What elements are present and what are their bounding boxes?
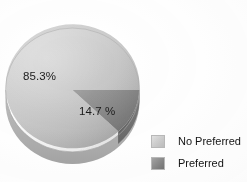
legend-swatch-preferred bbox=[151, 157, 165, 170]
slice-label-no-preferred: 85.3% bbox=[23, 70, 56, 82]
legend-item-no-preferred[interactable]: No Preferred bbox=[151, 130, 247, 152]
legend: No Preferred Preferred bbox=[151, 130, 247, 174]
slice-label-preferred: 14.7 % bbox=[79, 105, 115, 117]
legend-swatch-no-preferred bbox=[151, 135, 165, 148]
pie-sheen-overlay bbox=[6, 28, 140, 152]
legend-item-preferred[interactable]: Preferred bbox=[151, 152, 247, 174]
pie-svg bbox=[0, 6, 150, 178]
pie-chart-figure: 85.3% 14.7 % No Preferred Preferred bbox=[0, 0, 247, 182]
legend-label-no-preferred: No Preferred bbox=[178, 135, 241, 147]
pie-graphic: 85.3% 14.7 % bbox=[0, 6, 150, 178]
legend-label-preferred: Preferred bbox=[178, 157, 224, 169]
cropped-title-remnant bbox=[28, 0, 148, 5]
